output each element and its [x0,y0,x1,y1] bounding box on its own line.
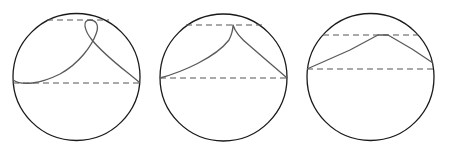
panel-smooth-trajectory [307,14,434,141]
boundary-circle [307,14,434,141]
panel-looped-trajectory [13,14,140,141]
trajectory-figure [0,0,449,151]
boundary-circle [13,14,140,141]
trajectory-curve [307,35,433,69]
panel-cusped-trajectory [160,14,287,141]
trajectory-curve [13,20,140,83]
